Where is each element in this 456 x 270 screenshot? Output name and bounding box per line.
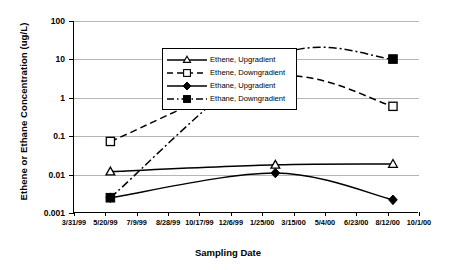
legend-item: Ethane, Upgradient	[166, 79, 292, 92]
legend: Ethene, Upgradient Ethene, Downgradient …	[162, 48, 297, 110]
legend-item: Ethene, Downgradient	[166, 66, 292, 79]
legend-label: Ethene, Downgradient	[208, 68, 285, 77]
legend-label: Ethene, Upgradient	[208, 55, 275, 64]
data-point-marker	[271, 168, 280, 178]
series-line	[110, 173, 393, 200]
data-point-marker	[106, 137, 114, 145]
series-line	[110, 164, 393, 172]
legend-symbol-ethene-downgradient	[166, 67, 208, 79]
series-ethane-upgradient	[106, 168, 397, 204]
y-axis-tick-label: 0.1	[5, 131, 65, 141]
x-axis-title: Sampling Date	[0, 247, 456, 258]
legend-item: Ethane, Downgradient	[166, 92, 292, 105]
legend-symbol-ethane-downgradient	[166, 93, 208, 105]
plot-area: 3/31/995/20/997/9/998/28/9910/17/9912/6/…	[73, 21, 418, 213]
y-axis-title: Ethene or Ethane Concentration (ug/L)	[18, 7, 29, 217]
y-axis-tick-label: 1	[5, 93, 65, 103]
data-point-marker	[106, 193, 115, 202]
legend-symbol-ethene-upgradient	[166, 54, 208, 66]
y-axis-tick-label: 10	[5, 54, 65, 64]
data-point-marker	[389, 55, 398, 64]
legend-item: Ethene, Upgradient	[166, 53, 292, 66]
x-axis-tick-label: 10/1/00	[389, 218, 449, 227]
y-axis-tick-label: 100	[5, 16, 65, 26]
legend-symbol-ethane-upgradient	[166, 80, 208, 92]
legend-label: Ethane, Upgradient	[208, 81, 275, 90]
y-axis-tick-label: 0.01	[5, 170, 65, 180]
y-axis-tick-label: 0.001	[5, 208, 65, 218]
x-axis-tick	[419, 212, 420, 216]
chart-container: Ethene or Ethane Concentration (ug/L) 10…	[0, 0, 456, 270]
legend-label: Ethane, Downgradient	[208, 94, 285, 103]
data-point-marker	[389, 195, 398, 205]
data-point-marker	[389, 102, 397, 110]
